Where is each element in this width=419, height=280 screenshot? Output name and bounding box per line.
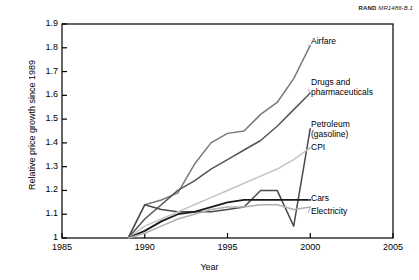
plot-frame [62, 24, 393, 238]
plot-canvas [0, 0, 419, 280]
chart-figure: RANDMR1486-B.1 Relative price growth sin… [0, 0, 419, 280]
leader-drugs [308, 89, 310, 93]
